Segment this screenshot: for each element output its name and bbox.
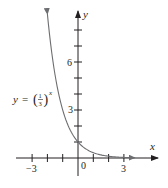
y-axis-label: y [82, 8, 88, 20]
svg-text:): ) [44, 92, 49, 108]
svg-text:x: x [48, 89, 53, 97]
exponential-graph: x y −3 0 3 3 6 y = ( 1 3 ) x [0, 0, 168, 188]
curve-label: y = ( 1 3 ) x [12, 89, 53, 108]
y-tick-label-6: 6 [67, 57, 72, 68]
x-tick-label-0: 0 [81, 160, 86, 171]
x-tick-label-3: 3 [121, 163, 126, 174]
y-tick-label-3: 3 [68, 104, 73, 115]
x-axis-label: x [149, 140, 155, 152]
curve-one-third-pow-x [47, 14, 134, 158]
svg-text:y: y [12, 93, 18, 105]
x-tick-label-neg3: −3 [26, 163, 37, 174]
svg-text:(: ( [33, 92, 38, 108]
svg-text:1: 1 [39, 92, 42, 99]
svg-text:3: 3 [39, 100, 42, 107]
svg-text:=: = [22, 93, 28, 105]
